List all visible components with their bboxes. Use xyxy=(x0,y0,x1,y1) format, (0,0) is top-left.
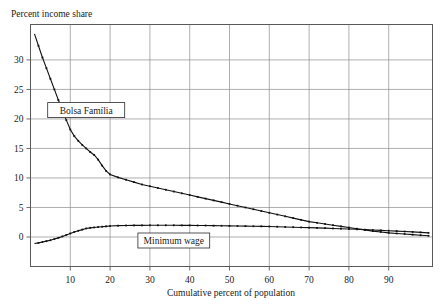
data-point-marker xyxy=(85,228,87,230)
data-point-marker xyxy=(276,226,278,228)
data-point-marker xyxy=(412,234,414,236)
data-point-marker xyxy=(46,240,48,242)
data-point-marker xyxy=(65,119,67,121)
data-point-marker xyxy=(189,194,191,196)
ytick-label-0: 0 xyxy=(19,232,24,242)
data-point-marker xyxy=(57,99,59,101)
data-point-marker xyxy=(300,219,302,221)
data-point-marker xyxy=(229,225,231,227)
data-point-marker xyxy=(42,241,44,243)
data-point-marker xyxy=(412,231,414,233)
data-point-marker xyxy=(380,229,382,231)
data-point-marker xyxy=(181,192,183,194)
data-point-marker xyxy=(105,170,107,172)
data-point-marker xyxy=(197,196,199,198)
data-point-marker xyxy=(38,45,40,47)
data-point-marker xyxy=(133,225,135,227)
data-point-marker xyxy=(157,224,159,226)
data-point-marker xyxy=(50,239,52,241)
data-point-marker xyxy=(189,225,191,227)
data-point-marker xyxy=(181,224,183,226)
data-point-marker xyxy=(229,203,231,205)
data-point-marker xyxy=(101,165,103,167)
data-point-marker xyxy=(149,224,151,226)
ytick-label-25: 25 xyxy=(14,85,24,95)
data-point-marker xyxy=(46,67,48,69)
data-point-marker xyxy=(105,225,107,227)
y-axis-title: Percent income share xyxy=(11,9,92,19)
data-point-marker xyxy=(81,229,83,231)
data-point-marker xyxy=(221,201,223,203)
data-point-marker xyxy=(420,234,422,236)
data-point-marker xyxy=(205,198,207,200)
data-point-marker xyxy=(165,224,167,226)
data-point-marker xyxy=(404,231,406,233)
data-point-marker xyxy=(348,228,350,230)
data-point-marker xyxy=(428,232,430,234)
data-point-marker xyxy=(69,129,71,131)
data-point-marker xyxy=(133,181,135,183)
data-point-marker xyxy=(252,225,254,227)
xtick-label-10: 10 xyxy=(66,275,76,285)
data-point-marker xyxy=(77,140,79,142)
data-point-marker xyxy=(332,224,334,226)
xtick-label-20: 20 xyxy=(105,275,115,285)
ytick-label-15: 15 xyxy=(14,144,24,154)
data-point-marker xyxy=(420,231,422,233)
data-point-marker xyxy=(213,199,215,201)
data-point-marker xyxy=(125,225,127,227)
data-point-marker xyxy=(284,226,286,228)
data-point-marker xyxy=(300,227,302,229)
data-point-marker xyxy=(268,212,270,214)
data-point-marker xyxy=(53,89,55,91)
data-point-marker xyxy=(364,229,366,231)
data-point-marker xyxy=(284,215,286,217)
data-point-marker xyxy=(260,225,262,227)
data-point-marker xyxy=(260,210,262,212)
chart-figure: Percent income share 051015202530 102030… xyxy=(0,0,447,307)
data-point-marker xyxy=(42,57,44,59)
data-point-marker xyxy=(81,144,83,146)
data-point-marker xyxy=(173,191,175,193)
data-point-marker xyxy=(65,234,67,236)
data-point-marker xyxy=(125,179,127,181)
minimum-wage-label: Minimum wage xyxy=(138,233,210,248)
ytick-label-20: 20 xyxy=(14,114,24,124)
data-point-marker xyxy=(109,174,111,176)
data-point-marker xyxy=(252,208,254,210)
data-point-marker xyxy=(428,235,430,237)
data-point-marker xyxy=(97,226,99,228)
data-point-marker xyxy=(404,233,406,235)
income-share-line-chart: Percent income share 051015202530 102030… xyxy=(0,0,447,307)
data-point-marker xyxy=(205,225,207,227)
data-point-marker xyxy=(61,236,63,238)
data-point-marker xyxy=(101,226,103,228)
data-point-marker xyxy=(117,225,119,227)
xtick-label-60: 60 xyxy=(265,275,275,285)
ytick-label-10: 10 xyxy=(14,173,24,183)
data-point-marker xyxy=(237,225,239,227)
data-point-marker xyxy=(53,238,55,240)
data-point-marker xyxy=(97,159,99,161)
data-point-marker xyxy=(50,78,52,80)
xtick-label-70: 70 xyxy=(304,275,314,285)
data-point-marker xyxy=(245,207,247,209)
data-point-marker xyxy=(73,135,75,137)
data-point-marker xyxy=(157,187,159,189)
data-point-marker xyxy=(237,205,239,207)
xtick-label-50: 50 xyxy=(225,275,235,285)
data-point-marker xyxy=(340,225,342,227)
data-point-marker xyxy=(93,154,95,156)
data-point-marker xyxy=(57,237,59,239)
data-point-marker xyxy=(117,176,119,178)
data-point-marker xyxy=(388,232,390,234)
xtick-label-80: 80 xyxy=(344,275,354,285)
data-point-marker xyxy=(149,185,151,187)
data-point-marker xyxy=(89,151,91,153)
data-point-marker xyxy=(324,223,326,225)
data-point-marker xyxy=(173,224,175,226)
minimum-wage-label-text: Minimum wage xyxy=(144,236,204,246)
data-point-marker xyxy=(197,225,199,227)
data-point-marker xyxy=(245,225,247,227)
data-point-marker xyxy=(221,225,223,227)
